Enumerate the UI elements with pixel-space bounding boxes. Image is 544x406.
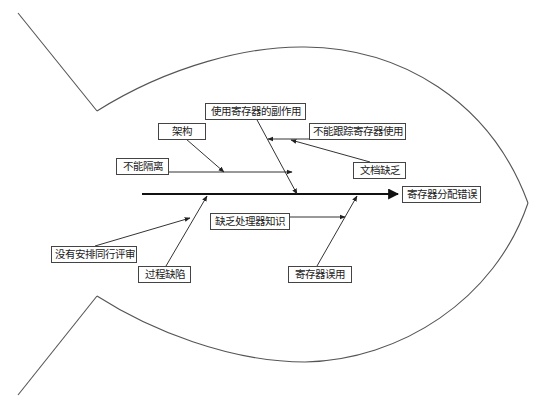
- cause-label: 不能跟踪寄存器使用: [313, 125, 403, 137]
- fish-tail-bottom: [18, 296, 97, 395]
- fishbone-diagram: [0, 0, 544, 406]
- cause-box-side-effects: 使用寄存器的副作用: [205, 103, 306, 120]
- bone-side-effects: [256, 118, 297, 194]
- effect-label: 寄存器分配错误: [407, 188, 477, 200]
- cause-label: 架构: [172, 125, 192, 137]
- fish-outline: [18, 13, 528, 395]
- cause-label: 过程缺陷: [145, 268, 185, 280]
- bone-no-peer-review: [95, 218, 190, 246]
- bone-register-misuse: [317, 196, 357, 266]
- cause-box-lack-processor-knowledge: 缺乏处理器知识: [210, 213, 290, 230]
- cause-box-no-isolation: 不能隔离: [116, 158, 169, 175]
- effect-box-head: 寄存器分配错误: [402, 186, 481, 203]
- bone-architecture: [186, 139, 224, 172]
- cause-box-architecture: 架构: [158, 123, 206, 140]
- cause-box-lack-docs: 文档缺乏: [353, 162, 406, 179]
- cause-label: 文档缺乏: [360, 164, 400, 176]
- cause-box-no-peer-review: 没有安排同行评审: [51, 246, 137, 263]
- cause-label: 寄存器误用: [295, 268, 345, 280]
- cause-box-process-defect: 过程缺陷: [138, 266, 191, 283]
- cause-box-cannot-track: 不能跟踪寄存器使用: [309, 123, 406, 140]
- cause-label: 不能隔离: [123, 160, 163, 172]
- fish-tail-top: [18, 13, 97, 111]
- cause-label: 缺乏处理器知识: [215, 215, 285, 227]
- bone-process-defect: [166, 196, 207, 266]
- cause-box-register-misuse: 寄存器误用: [288, 266, 352, 283]
- bone-lack-docs: [291, 140, 370, 162]
- cause-label: 使用寄存器的副作用: [211, 105, 301, 117]
- cause-label: 没有安排同行评审: [55, 248, 135, 260]
